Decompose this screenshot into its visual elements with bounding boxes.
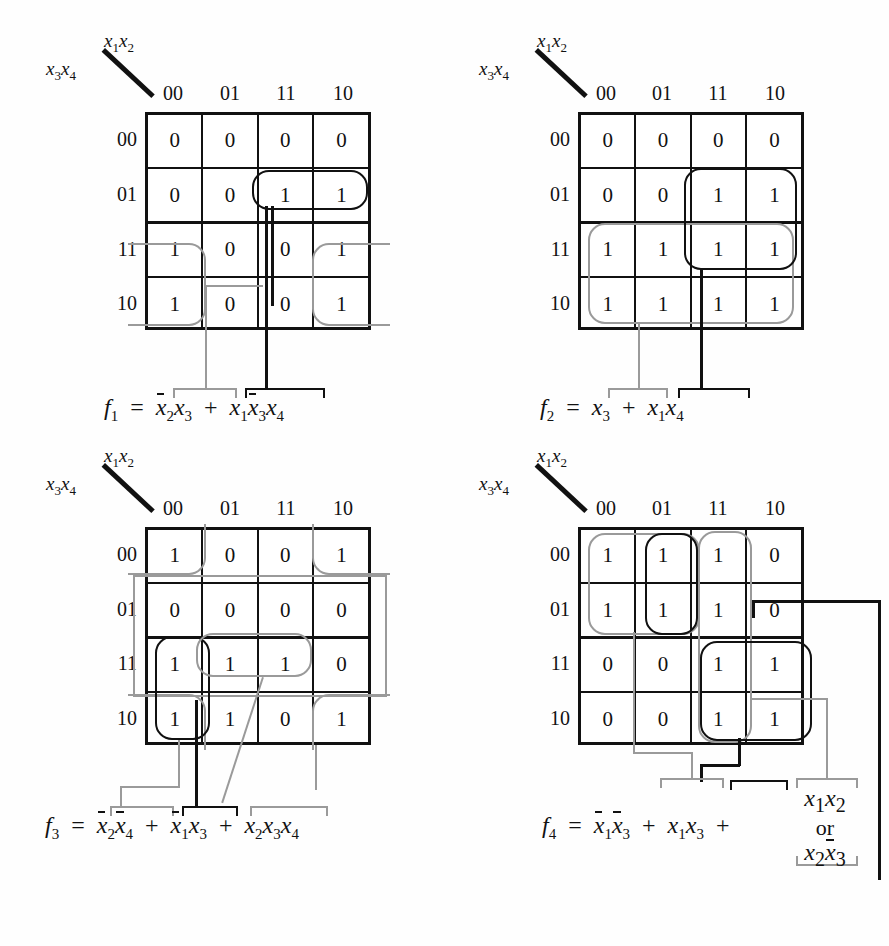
kmap-cell: 1: [636, 224, 691, 276]
kmap-cell: 1: [314, 169, 369, 221]
kmap-grid-f3: 1 0 0 1 0 0 0 0 1 1 1 0 1 1 0 1: [145, 527, 371, 745]
kmap-cell: 1: [692, 584, 747, 636]
kmap-cell: 0: [581, 115, 636, 167]
col-header-f1-3: 10: [315, 82, 371, 105]
leader-line-f1-black: [265, 206, 268, 390]
kmap-cell: 1: [692, 530, 747, 582]
equation-f2-term-2: x1x4: [647, 394, 683, 420]
kmap-group-f3-gray-rail-left: [133, 575, 135, 697]
leader-line-f3-gray1: [178, 740, 180, 788]
equation-f4-alt-terms: x1x2 or x2x3: [770, 786, 880, 871]
kmap-cell: 0: [581, 693, 636, 745]
kmap-cell: 1: [314, 278, 369, 330]
row-header-f1-2: 11: [101, 238, 137, 261]
kmap-cell: 0: [203, 530, 258, 582]
kmap-cell: 1: [203, 639, 258, 691]
col-header-f2-3: 10: [747, 82, 803, 105]
kmap-cell: 1: [581, 530, 636, 582]
row-header-f2-0: 00: [534, 128, 570, 151]
equation-f1: f1 = x2x3 + x1x3x4: [104, 394, 284, 425]
leader-line-f3-black: [195, 700, 198, 808]
equation-f3-lhs: f3: [45, 812, 59, 838]
kmap-cell: 0: [747, 584, 802, 636]
kmap-cell: 1: [314, 530, 369, 582]
kmap-cell: 1: [692, 169, 747, 221]
row-header-f3-1: 01: [101, 598, 137, 621]
kmap-cell: 0: [148, 169, 203, 221]
kmap-cell: 1: [148, 224, 203, 276]
kmap-cell: 1: [148, 639, 203, 691]
col-header-f2-1: 01: [634, 82, 690, 105]
kmap-cell: 0: [747, 115, 802, 167]
brace-f4-term1: [660, 778, 724, 788]
equation-f2-eq: =: [566, 394, 580, 420]
col-header-f2-0: 00: [578, 82, 634, 105]
col-var-label-f1: x1x2: [104, 30, 134, 56]
kmap-grid-f1: 0 0 0 0 0 0 1 1 1 0 0 1 1 0 0 1: [145, 112, 371, 330]
col-header-f2-2: 11: [690, 82, 746, 105]
row-header-f3-2: 11: [101, 652, 137, 675]
col-header-f3-1: 01: [202, 497, 258, 520]
row-header-f2-2: 11: [534, 238, 570, 261]
equation-f4-or-word: or: [770, 816, 880, 840]
kmap-cell: 0: [747, 530, 802, 582]
leader-line-f1-black2: [271, 206, 274, 306]
leader-line-f2-black: [700, 268, 703, 390]
kmap-cell: 0: [581, 639, 636, 691]
col-header-f3-0: 00: [145, 497, 201, 520]
row-var-label-f1: x3x4: [46, 58, 76, 84]
col-header-f4-3: 10: [747, 497, 803, 520]
kmap-cell: 0: [203, 115, 258, 167]
kmap-cell: 1: [747, 639, 802, 691]
kmap-cell: 1: [747, 169, 802, 221]
equation-f3-eq: =: [71, 812, 85, 838]
equation-f2-term-1: x3: [592, 394, 610, 420]
row-header-f1-3: 10: [101, 292, 137, 315]
kmap-cell: 1: [747, 278, 802, 330]
equation-f1-eq: =: [130, 394, 144, 420]
kmap-cell: 1: [692, 639, 747, 691]
kmap-cell: 1: [259, 639, 314, 691]
leader-line-f4-t3-stub: [752, 600, 755, 618]
equation-f3-term-3: x2x3x4: [244, 812, 298, 838]
row-header-f4-2: 11: [534, 652, 570, 675]
kmap-cell: 0: [314, 584, 369, 636]
kmap-cell: 1: [314, 224, 369, 276]
col-header-f4-1: 01: [634, 497, 690, 520]
kmap-cell: 1: [636, 278, 691, 330]
row-var-label-f4: x3x4: [479, 473, 509, 499]
row-header-f4-1: 01: [534, 598, 570, 621]
kmap-cell: 0: [636, 639, 691, 691]
kmap-group-f3-gray-rail-bottom: [133, 695, 387, 697]
equation-f3-term-1: x2x4: [97, 812, 133, 838]
kmap-cell: 0: [636, 693, 691, 745]
leader-line-f3-gray1h: [120, 786, 180, 788]
col-header-f1-0: 00: [145, 82, 201, 105]
leader-line-f1-gray-h: [205, 285, 263, 287]
kmap-cell: 0: [259, 693, 314, 745]
kmap-cell: 0: [692, 115, 747, 167]
kmap-cell: 1: [581, 584, 636, 636]
row-header-f2-1: 01: [534, 183, 570, 206]
leader-line-f4-t1v: [691, 752, 693, 780]
equation-f4: f4 = x1x3 + x1x3 +: [542, 812, 729, 843]
kmap-group-f3-gray-rail-right: [385, 575, 387, 697]
kmap-cell: 1: [636, 530, 691, 582]
equation-f4-alt-top: x1x2: [770, 786, 880, 816]
row-var-label-f2: x3x4: [479, 58, 509, 84]
col-var-label-f4: x1x2: [537, 445, 567, 471]
col-header-f1-2: 11: [258, 82, 314, 105]
row-header-f3-0: 00: [101, 543, 137, 566]
equation-f4-eq: =: [568, 812, 582, 838]
row-header-f4-0: 00: [534, 543, 570, 566]
equation-f3-term-2: x1x3: [171, 812, 207, 838]
col-header-f3-2: 11: [258, 497, 314, 520]
row-var-label-f3: x3x4: [46, 473, 76, 499]
col-header-f1-1: 01: [202, 82, 258, 105]
col-var-label-f2: x1x2: [537, 30, 567, 56]
leader-line-f3-gray1v: [120, 786, 122, 808]
equation-f1-term-1: x2x3: [156, 394, 192, 420]
row-header-f3-3: 10: [101, 707, 137, 730]
kmap-cell: 0: [148, 115, 203, 167]
brace-f2-term2: [678, 388, 750, 398]
